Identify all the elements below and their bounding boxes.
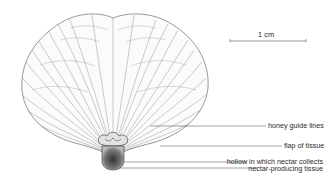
label-honey-guide-lines: honey guide lines bbox=[268, 122, 324, 130]
nectar-hollow-shape bbox=[102, 146, 124, 170]
label-flap-of-tissue: flap of tissue bbox=[284, 142, 324, 150]
label-nectar-producing-tissue: nectar-producing tissue bbox=[248, 165, 323, 173]
scale-bar-label: 1 cm bbox=[258, 30, 274, 39]
scale-bar bbox=[230, 39, 306, 42]
petal-outline bbox=[22, 14, 208, 153]
petal-diagram: 1 cm honey guide lines flap of tissue ho… bbox=[0, 0, 325, 184]
